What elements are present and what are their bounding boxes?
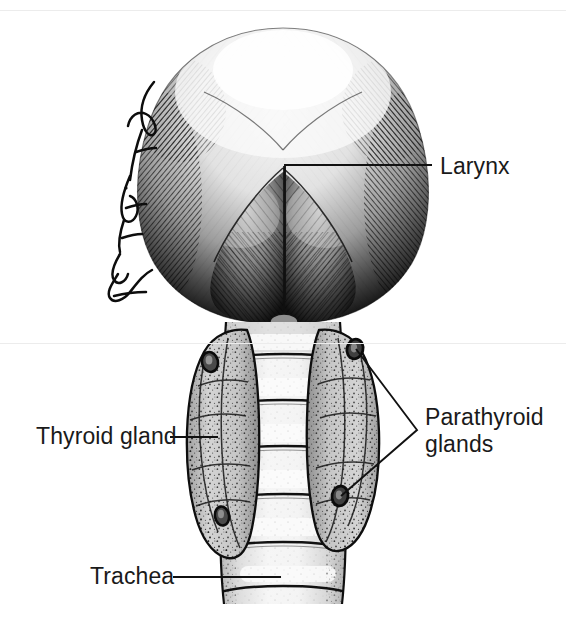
- label-parathyroid-glands: Parathyroidglands: [425, 404, 544, 458]
- label-larynx: Larynx: [440, 153, 510, 180]
- scan-artifact-line-middle: [0, 343, 566, 344]
- scan-artifact-line-top: [0, 10, 566, 11]
- artist-signature: [96, 68, 176, 318]
- label-parathyroid-line1: Parathyroid: [425, 404, 544, 430]
- anatomy-figure-canvas: Larynx Thyroid gland Parathyroidglands T…: [0, 0, 566, 628]
- label-parathyroid-line2: glands: [425, 431, 493, 457]
- thyroid-anatomy-illustration: [0, 0, 566, 628]
- label-thyroid-gland: Thyroid gland: [36, 423, 177, 450]
- label-trachea: Trachea: [90, 563, 174, 590]
